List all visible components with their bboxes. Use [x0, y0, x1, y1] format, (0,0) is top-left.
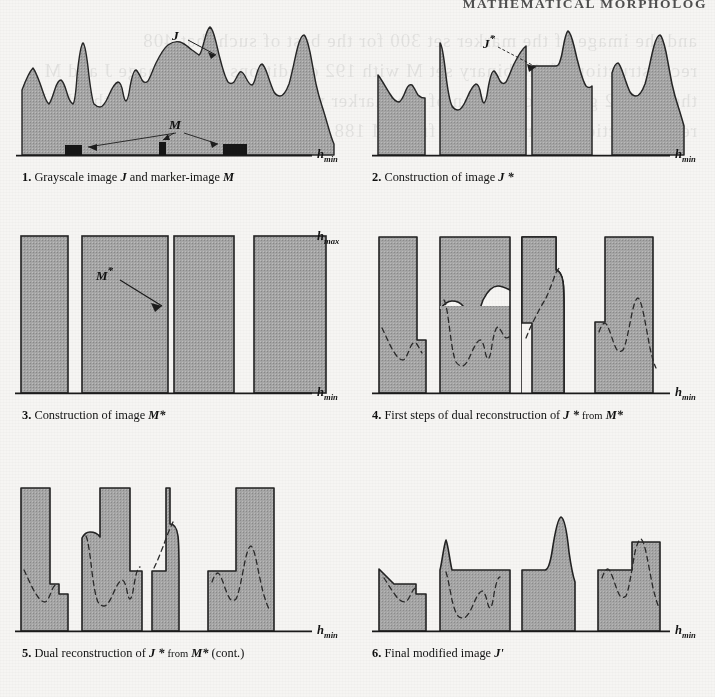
panel-1-figure: h min J M: [12, 14, 357, 164]
caption-panel-1: 1. Grayscale image J and marker-image M: [22, 170, 234, 185]
recon6-block-2: [440, 540, 510, 631]
axis-label-hmin: h: [675, 147, 682, 161]
marker-rect-3: [223, 144, 247, 155]
panel-4-figure: h min: [370, 228, 705, 400]
recon4-block-1: [379, 237, 426, 393]
axis-label-hmin: h: [317, 147, 324, 161]
panel-3-figure: h max h min M*: [12, 228, 357, 400]
mstar-column-3: [174, 236, 234, 393]
axis-label-hmax-sub: max: [324, 236, 340, 246]
recon5-block-4: [208, 488, 274, 631]
mstar-column-1: [21, 236, 68, 393]
panel-2-figure: h min J*: [370, 14, 705, 164]
recon5-block-3: [152, 488, 179, 631]
panel-6-figure: h min: [370, 466, 705, 638]
axis-label-hmin-sub: min: [682, 154, 696, 164]
label-M: M: [168, 117, 182, 132]
marker-rect-2: [159, 142, 166, 155]
panel-5-figure: h min: [12, 466, 357, 638]
recon6-block-3: [522, 517, 575, 631]
panel-5: h min: [12, 466, 357, 638]
axis-label-hmin-sub: min: [682, 392, 696, 401]
mstar-column-2: [82, 236, 168, 393]
panel-3: h max h min M*: [12, 228, 357, 400]
recon4-block-3-fill: [522, 323, 532, 393]
label-J: J: [171, 28, 180, 43]
recon6-block-1: [379, 569, 426, 631]
caption-panel-3: 3. Construction of image M*: [22, 408, 166, 423]
caption-panel-6: 6. Final modified image J': [372, 646, 504, 661]
panel-2: h min J*: [370, 14, 705, 164]
panel-1: h min J M: [12, 14, 357, 164]
jstar-block-1: [378, 75, 425, 155]
caption-panel-4: 4. First steps of dual reconstruction of…: [372, 408, 623, 423]
figure-grid: h min J M 1. Grayscale image J and marke…: [0, 0, 715, 697]
axis-label-hmin: h: [675, 385, 682, 399]
grayscale-terrain-J: [22, 27, 334, 155]
recon5-block-1: [21, 488, 68, 631]
axis-label-hmin: h: [675, 623, 682, 637]
jstar-block-3: [532, 31, 592, 155]
axis-label-hmin: h: [317, 623, 324, 637]
jstar-block-2: [440, 43, 526, 155]
caption-panel-5: 5. Dual reconstruction of J * from M* (c…: [22, 646, 244, 661]
marker-rect-1: [65, 145, 82, 155]
axis-label-hmin-sub: min: [324, 630, 338, 639]
label-J-star: J*: [482, 32, 496, 51]
panel-4: h min: [370, 228, 705, 400]
axis-label-hmin-sub: min: [324, 392, 338, 401]
axis-label-hmin-sub: min: [682, 630, 696, 639]
panel-6: h min: [370, 466, 705, 638]
axis-label-hmax: h: [317, 229, 324, 243]
caption-panel-2: 2. Construction of image J *: [372, 170, 514, 185]
axis-label-hmin: h: [317, 385, 324, 399]
axis-label-hmin-sub: min: [324, 154, 338, 164]
recon5-block-2: [82, 488, 142, 631]
mstar-column-4: [254, 236, 326, 393]
jstar-block-4: [612, 35, 684, 155]
recon4-block-2-body: [440, 306, 510, 393]
